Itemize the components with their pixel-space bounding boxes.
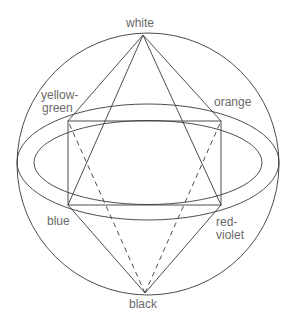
edge-black-yellowgreen-hidden bbox=[68, 121, 145, 293]
hue-rectangle bbox=[68, 121, 221, 205]
label-black: black bbox=[129, 298, 157, 311]
label-orange: orange bbox=[214, 96, 251, 109]
label-blue: blue bbox=[47, 215, 70, 228]
label-red-violet-2: violet bbox=[216, 229, 244, 242]
color-solid-diagram bbox=[0, 0, 302, 323]
label-white: white bbox=[126, 17, 154, 30]
edge-white-yellowgreen bbox=[68, 35, 143, 121]
outer-sphere bbox=[17, 33, 279, 295]
edge-black-orange-hidden bbox=[145, 121, 221, 293]
edge-black-blue bbox=[68, 205, 145, 293]
edge-white-blue bbox=[68, 35, 143, 205]
edge-white-redviolet bbox=[143, 35, 221, 205]
label-yellow-green-2: green bbox=[42, 102, 73, 115]
